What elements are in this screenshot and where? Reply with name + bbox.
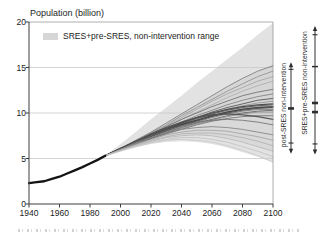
- x-tick-label: 2060: [199, 209, 225, 218]
- chart-title: Population (billion): [30, 8, 104, 18]
- post-sres-range-label: post-SRES non-intervention: [281, 63, 288, 147]
- x-tick-label: 1980: [77, 209, 103, 218]
- cropped-caption-strip: [18, 229, 300, 232]
- legend: SRES+pre-SRES, non-intervention range: [43, 31, 219, 41]
- population-projection-figure: Population (billion) SRES+pre-SRES, non-…: [0, 0, 321, 233]
- legend-label: SRES+pre-SRES, non-intervention range: [63, 31, 219, 41]
- range-bar-arrow-up: [289, 62, 293, 67]
- range-bar-arrow-down: [313, 150, 317, 155]
- y-tick-label: 10: [0, 109, 26, 118]
- historical-population-curve: [29, 156, 105, 183]
- sres-presres-range-label: SRES+pre-SRES non-intervention: [302, 31, 309, 135]
- y-tick-label: 15: [0, 64, 26, 73]
- y-tick-label: 20: [0, 18, 26, 27]
- x-tick-label: 1940: [16, 209, 42, 218]
- x-tick-label: 2020: [138, 209, 164, 218]
- y-tick-label: 5: [0, 155, 26, 164]
- x-tick-label: 2100: [260, 209, 286, 218]
- x-tick-label: 2080: [230, 209, 256, 218]
- x-tick-label: 2000: [108, 209, 134, 218]
- y-tick-label: 0: [0, 200, 26, 209]
- x-tick-label: 2040: [169, 209, 195, 218]
- range-bar-arrow-down: [289, 149, 293, 154]
- x-tick-label: 1960: [47, 209, 73, 218]
- legend-range-swatch: [43, 33, 58, 40]
- range-bar-arrow-up: [313, 26, 317, 31]
